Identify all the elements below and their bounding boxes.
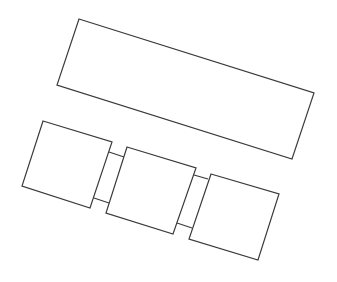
connector-1-bottom [94, 198, 109, 203]
square-1 [22, 121, 112, 208]
connector-2-top [194, 175, 208, 179]
shapes-group [22, 19, 314, 260]
connector-1-top [109, 152, 124, 157]
square-3 [189, 174, 279, 260]
diagram-canvas [0, 0, 337, 282]
square-2 [106, 147, 196, 234]
connector-2-bottom [177, 223, 192, 228]
